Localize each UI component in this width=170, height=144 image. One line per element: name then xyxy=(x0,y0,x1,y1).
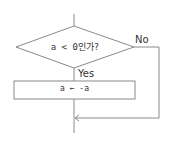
process-text: a ← -a xyxy=(14,84,135,93)
no-label: No xyxy=(135,34,149,45)
decision-text: a < 0인가? xyxy=(16,40,134,53)
yes-label: Yes xyxy=(78,68,94,79)
